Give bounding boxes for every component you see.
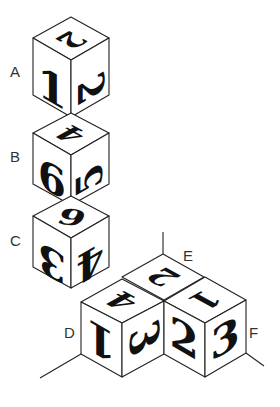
cube-a: 2 1 2 xyxy=(33,17,112,122)
label-a: A xyxy=(10,63,20,80)
axis-right xyxy=(246,353,264,366)
axis-left xyxy=(40,354,81,378)
label-b: B xyxy=(10,148,20,165)
label-c: C xyxy=(10,232,21,249)
label-d: D xyxy=(64,324,75,341)
label-f: F xyxy=(249,324,258,341)
label-e: E xyxy=(183,247,193,264)
cube-c: 6 3 4 xyxy=(33,196,109,295)
cube-b: 4 6 5 xyxy=(33,113,110,210)
cube-puzzle-figure: 2 1 2 A 4 6 5 B 6 3 4 C 2 4 1 3 xyxy=(0,0,280,407)
